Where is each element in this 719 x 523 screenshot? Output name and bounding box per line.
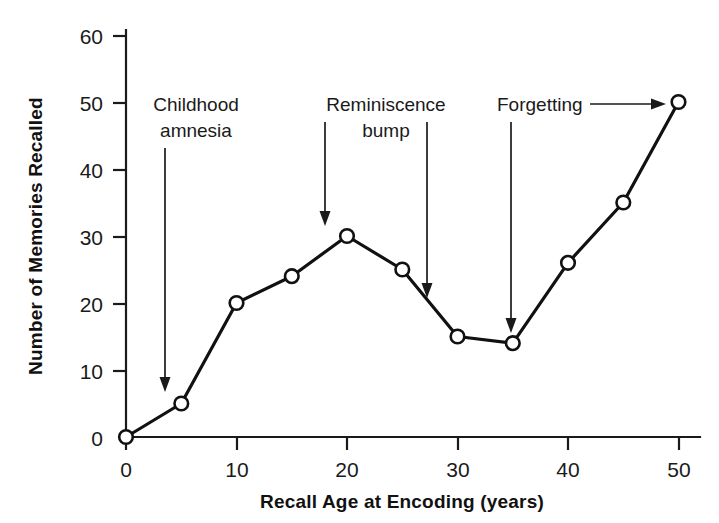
y-tick-label-50: 50: [80, 92, 103, 115]
data-point-5-5[interactable]: [175, 397, 189, 411]
annotation-forgetting: Forgetting: [497, 94, 666, 333]
x-tick-label-50: 50: [667, 458, 690, 481]
data-point-25-25[interactable]: [396, 263, 410, 277]
x-tick-label-40: 40: [556, 458, 579, 481]
data-point-0-0[interactable]: [119, 430, 133, 444]
data-point-50-50[interactable]: [672, 95, 686, 109]
y-tick-label-0: 0: [91, 427, 103, 450]
annotation-childhood-amnesia: Childhood amnesia: [153, 94, 239, 392]
annotation-forgetting-arrow-right-head: [651, 99, 666, 110]
data-point-40-26[interactable]: [561, 256, 575, 270]
chart-canvas: 60 50 40 30 20 10 0 0 10 20 30 40 50 Rec…: [0, 0, 719, 523]
annotation-reminiscence-bump-line1: Reminiscence: [326, 94, 445, 115]
x-tick-label-10: 10: [225, 458, 248, 481]
annotation-forgetting-label: Forgetting: [497, 94, 583, 115]
data-point-45-35[interactable]: [617, 196, 631, 210]
data-point-35-14[interactable]: [506, 336, 520, 350]
annotation-childhood-amnesia-arrow-head: [160, 377, 171, 392]
y-tick-label-40: 40: [80, 159, 103, 182]
y-tick-label-30: 30: [80, 226, 103, 249]
memory-recall-chart: 60 50 40 30 20 10 0 0 10 20 30 40 50 Rec…: [0, 0, 719, 523]
annotation-reminiscence-bump: Reminiscence bump: [320, 94, 446, 298]
data-point-10-20[interactable]: [230, 296, 244, 310]
x-axis-title: Recall Age at Encoding (years): [260, 491, 544, 512]
annotation-childhood-amnesia-line1: Childhood: [153, 94, 239, 115]
data-point-15-24[interactable]: [285, 269, 299, 283]
y-tick-label-10: 10: [80, 360, 103, 383]
annotation-childhood-amnesia-line2: amnesia: [160, 120, 232, 141]
x-tick-label-20: 20: [335, 458, 358, 481]
annotation-reminiscence-bump-line2: bump: [362, 120, 410, 141]
annotation-reminiscence-bump-arrow-left-head: [320, 211, 331, 226]
y-tick-label-20: 20: [80, 293, 103, 316]
y-tick-label-60: 60: [80, 25, 103, 48]
x-tick-label-30: 30: [446, 458, 469, 481]
data-point-20-30[interactable]: [340, 229, 354, 243]
annotation-forgetting-arrow-down-head: [506, 318, 517, 333]
x-tick-label-0: 0: [120, 458, 132, 481]
y-axis-title: Number of Memories Recalled: [25, 97, 46, 375]
data-point-30-15[interactable]: [451, 330, 465, 344]
